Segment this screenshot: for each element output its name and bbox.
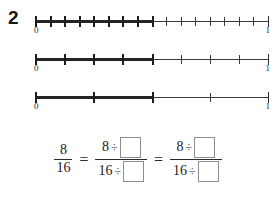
numberline-label-zero: 0 bbox=[34, 102, 39, 111]
tick-mark bbox=[224, 17, 225, 26]
tick-mark bbox=[253, 17, 254, 26]
fraction-step1-numerator: 8 ÷ bbox=[99, 136, 144, 159]
tick-mark bbox=[239, 17, 240, 26]
tick-mark bbox=[152, 16, 154, 27]
step1-numerator-value: 8 bbox=[102, 140, 109, 155]
step2-denominator-value: 16 bbox=[173, 164, 187, 179]
question-number: 2 bbox=[8, 8, 19, 27]
worksheet-page: 2 01 01 01 8 16 = 8 ÷ 16 ÷ = 8 bbox=[0, 0, 276, 209]
fraction-original-denominator: 16 bbox=[54, 160, 72, 177]
numberline-label-one: 1 bbox=[266, 26, 271, 35]
equivalent-fraction-equation: 8 16 = 8 ÷ 16 ÷ = 8 ÷ bbox=[0, 136, 276, 183]
equals-sign-1: = bbox=[78, 152, 89, 168]
step2-numerator-value: 8 bbox=[177, 140, 184, 155]
tick-mark bbox=[122, 54, 124, 65]
division-icon: ÷ bbox=[111, 141, 118, 154]
fraction-division-step-2: 8 ÷ 16 ÷ bbox=[170, 136, 222, 183]
numberline-label-one: 1 bbox=[266, 64, 271, 73]
division-icon: ÷ bbox=[189, 165, 196, 178]
answer-blank-step1-denominator[interactable] bbox=[123, 161, 144, 182]
tick-mark bbox=[152, 92, 154, 103]
numberline-label-zero: 0 bbox=[34, 64, 39, 73]
tick-mark bbox=[50, 16, 52, 27]
fraction-step2-denominator: 16 ÷ bbox=[170, 160, 222, 183]
numberline-label-zero: 0 bbox=[34, 26, 39, 35]
tick-mark bbox=[195, 17, 196, 26]
tick-mark bbox=[122, 16, 124, 27]
tick-mark bbox=[210, 55, 211, 64]
tick-mark bbox=[64, 16, 66, 27]
tick-mark bbox=[181, 55, 182, 64]
tick-mark bbox=[108, 16, 110, 27]
tick-mark bbox=[210, 93, 211, 102]
tick-mark bbox=[137, 16, 139, 27]
tick-mark bbox=[181, 17, 182, 26]
answer-blank-step2-denominator[interactable] bbox=[198, 161, 219, 182]
numberline-label-one: 1 bbox=[266, 102, 271, 111]
fraction-division-step-1: 8 ÷ 16 ÷ bbox=[95, 136, 147, 183]
tick-mark bbox=[239, 55, 240, 64]
fraction-original: 8 16 bbox=[54, 142, 72, 176]
equals-sign-2: = bbox=[153, 152, 164, 168]
division-icon: ÷ bbox=[186, 141, 193, 154]
fraction-original-numerator: 8 bbox=[58, 142, 69, 159]
tick-mark bbox=[166, 17, 167, 26]
tick-mark bbox=[152, 54, 154, 65]
fraction-step2-numerator: 8 ÷ bbox=[174, 136, 219, 159]
tick-mark bbox=[64, 54, 66, 65]
fraction-step1-denominator: 16 ÷ bbox=[95, 160, 147, 183]
tick-mark bbox=[93, 92, 95, 103]
tick-mark bbox=[79, 16, 81, 27]
answer-blank-step1-numerator[interactable] bbox=[120, 137, 141, 158]
division-icon: ÷ bbox=[114, 165, 121, 178]
tick-mark bbox=[93, 54, 95, 65]
answer-blank-step2-numerator[interactable] bbox=[194, 137, 215, 158]
tick-mark bbox=[93, 16, 95, 27]
tick-mark bbox=[210, 17, 211, 26]
step1-denominator-value: 16 bbox=[98, 164, 112, 179]
